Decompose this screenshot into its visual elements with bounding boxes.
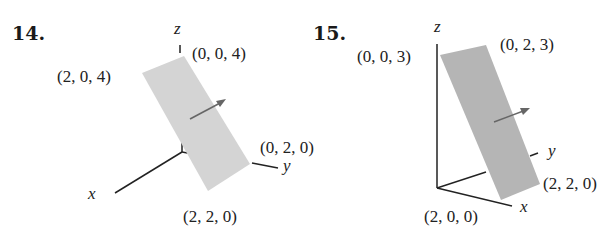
vertex-label: (2, 0, 4) [57,68,111,85]
y-axis [437,172,486,188]
z-axis-label: z [174,20,181,37]
y-axis-label: y [548,142,556,159]
x-axis [115,152,182,193]
problem-number: 14. [12,22,45,44]
y-axis [252,163,278,168]
vertex-label: (0, 2, 3) [500,36,554,53]
vertex-label: (0, 0, 4) [192,45,246,62]
figure-15: 15. z y x (0, 0, 3) (0, 2, 3) (2, 2, 0) … [306,0,612,246]
plane [440,45,540,200]
vertex-label: (2, 2, 0) [543,175,597,192]
vertex-label: (0, 0, 3) [357,48,411,65]
plane [142,56,250,191]
arrow-head-icon [520,108,530,115]
arrow-head-icon [216,99,226,107]
x-axis-label: x [88,185,96,202]
problem-number: 15. [313,22,346,44]
vertex-label: (2, 2, 0) [183,208,237,225]
y-axis-label: y [283,157,291,174]
x-axis-label: x [520,198,528,215]
figure-14: 14. z y x (2, 0, 4) (0, 0, 4) (0, 2, 0) … [0,0,306,246]
vertex-label: (2, 0, 0) [424,208,478,225]
z-axis-label: z [434,18,441,35]
y-axis-stub [530,153,538,156]
figure-14-diagram [0,0,306,246]
